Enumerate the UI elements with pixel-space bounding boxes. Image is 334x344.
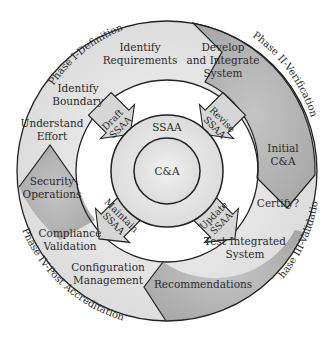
ssaa-label: SSAA (152, 121, 182, 133)
svg-text:Boundary: Boundary (52, 95, 104, 107)
svg-text:C&A: C&A (271, 155, 296, 167)
svg-text:Understand: Understand (21, 117, 84, 129)
step-certify: Certify? (257, 197, 300, 209)
c-and-a-process-diagram: SSAA C&A Draft SSAA Revise SSAA Update S… (0, 0, 334, 344)
svg-text:Identify: Identify (57, 82, 98, 94)
svg-text:Security: Security (30, 175, 75, 187)
svg-text:Develop: Develop (201, 41, 244, 53)
step-identify-boundary: Identify Boundary (52, 82, 104, 107)
svg-text:and Integrate: and Integrate (187, 54, 260, 66)
c-and-a-label: C&A (155, 165, 180, 177)
step-security-operations: Security Operations (23, 175, 82, 200)
svg-text:Identify: Identify (119, 41, 160, 53)
step-recommendations: Recommendations (154, 278, 252, 290)
svg-text:Compliance: Compliance (39, 227, 102, 239)
svg-text:Validation: Validation (42, 240, 96, 252)
svg-text:Recommendations: Recommendations (154, 278, 252, 290)
svg-text:Certify?: Certify? (257, 197, 300, 209)
step-configuration-management: Configuration Management (71, 261, 145, 286)
svg-text:Requirements: Requirements (103, 54, 178, 66)
svg-text:Operations: Operations (23, 188, 82, 200)
svg-text:Configuration: Configuration (71, 261, 145, 273)
svg-text:Test Integrated: Test Integrated (204, 235, 286, 247)
svg-text:System: System (226, 248, 265, 260)
step-compliance-validation: Compliance Validation (39, 227, 102, 252)
svg-text:System: System (204, 67, 243, 79)
svg-text:Management: Management (73, 274, 144, 286)
step-initial-c-and-a: Initial C&A (267, 142, 299, 167)
svg-text:Effort: Effort (37, 130, 68, 142)
svg-text:Initial: Initial (267, 142, 299, 154)
